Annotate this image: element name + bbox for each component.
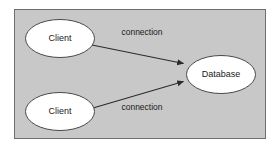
node-client-bottom[interactable]: Client bbox=[26, 93, 95, 131]
node-database[interactable]: Database bbox=[187, 56, 256, 94]
node-client-top[interactable]: Client bbox=[26, 20, 95, 58]
diagram-canvas: connection connection Client Client Data… bbox=[0, 0, 279, 152]
connection-diagram: connection connection Client Client Data… bbox=[0, 0, 279, 152]
client-bottom-label: Client bbox=[48, 106, 72, 116]
edge-label-bottom: connection bbox=[121, 102, 162, 112]
database-label: Database bbox=[202, 69, 241, 79]
edge-label-top: connection bbox=[121, 27, 162, 37]
client-top-label: Client bbox=[48, 33, 72, 43]
